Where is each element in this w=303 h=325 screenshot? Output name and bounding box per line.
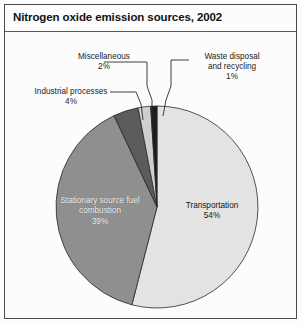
callout-miscellaneous-name: Miscellaneous [62,52,146,62]
slice-label-stationary-value: 39% [48,217,152,227]
callout-waste-disposal-name-line1: Waste disposal [190,52,274,62]
slice-label-stationary-line1: Stationary source fuel [48,196,152,206]
slice-label-stationary-source-fuel-combustion: Stationary source fuel combustion 39% [48,196,152,227]
callout-industrial-processes-name: Industrial processes [17,87,125,97]
slice-label-transportation-name: Transportation [173,201,251,211]
callout-waste-disposal: Waste disposal and recycling 1% [190,52,274,83]
slice-label-stationary-line2: combustion [48,206,152,216]
callout-waste-disposal-name-line2: and recycling [190,62,274,72]
callout-waste-disposal-value: 1% [190,72,274,82]
pie-chart-figure: Nitrogen oxide emission sources, 2002 Mi… [0,0,303,325]
slice-label-transportation: Transportation 54% [173,201,251,222]
pie-chart-canvas [0,0,303,325]
slice-label-transportation-value: 54% [173,211,251,221]
callout-miscellaneous-value: 2% [62,62,146,72]
callout-industrial-processes: Industrial processes 4% [17,87,125,107]
callout-miscellaneous: Miscellaneous 2% [62,52,146,72]
callout-industrial-processes-value: 4% [17,97,125,107]
